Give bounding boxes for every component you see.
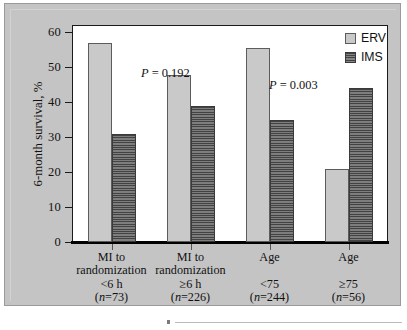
y-tick-label: 0 bbox=[55, 235, 61, 250]
x-category-label-4: Age ≥75(n=56) bbox=[297, 251, 400, 305]
bar-ims-group-3 bbox=[270, 120, 294, 243]
figure-root: 6-month survival, % 0102030405060 P = 0.… bbox=[0, 0, 407, 330]
y-tick-label: 20 bbox=[48, 165, 61, 180]
category-sample-size: (n=56) bbox=[297, 291, 400, 304]
y-tick-mark bbox=[65, 67, 72, 68]
bar-erv-group-4 bbox=[325, 169, 349, 243]
y-tick-mark bbox=[65, 102, 72, 103]
category-line-3: ≥75 bbox=[297, 278, 400, 291]
n-value: =73) bbox=[105, 290, 128, 304]
bar-ims-group-4 bbox=[349, 88, 373, 242]
y-tick-label: 40 bbox=[48, 95, 61, 110]
figure-panel: 6-month survival, % 0102030405060 P = 0.… bbox=[4, 3, 401, 306]
p-value-annotation-1: P = 0.192 bbox=[141, 66, 190, 81]
p-symbol-1: P bbox=[141, 66, 149, 80]
caption-rule bbox=[175, 322, 402, 323]
caption-fragment bbox=[167, 320, 402, 326]
y-tick-label: 60 bbox=[48, 25, 61, 40]
legend-swatch-erv-icon bbox=[345, 33, 356, 44]
p-value-text-2: = 0.003 bbox=[277, 78, 318, 92]
y-tick-mark bbox=[65, 137, 72, 138]
bar-erv-group-1 bbox=[88, 43, 112, 243]
bar-erv-group-2 bbox=[167, 75, 191, 242]
bar-erv-group-3 bbox=[246, 48, 270, 242]
y-tick-label: 50 bbox=[48, 60, 61, 75]
legend-item-erv: ERV bbox=[345, 31, 386, 45]
n-value: =226) bbox=[181, 290, 210, 304]
bar-ims-group-1 bbox=[112, 134, 136, 243]
y-tick-label: 10 bbox=[48, 200, 61, 215]
n-value: =56) bbox=[342, 290, 365, 304]
y-tick-mark bbox=[65, 207, 72, 208]
legend-label-ims: IMS bbox=[361, 50, 383, 64]
p-symbol-2: P bbox=[269, 78, 277, 92]
y-tick-label: 30 bbox=[48, 130, 61, 145]
y-tick-mark bbox=[65, 32, 72, 33]
n-value: =244) bbox=[260, 290, 289, 304]
p-value-text-1: = 0.192 bbox=[149, 66, 190, 80]
y-tick-group: 0102030405060 bbox=[5, 25, 72, 242]
y-axis: 0102030405060 bbox=[5, 25, 72, 242]
p-value-annotation-2: P = 0.003 bbox=[269, 78, 318, 93]
bar-ims-group-2 bbox=[191, 106, 215, 243]
x-axis-category-labels: MI torandomization<6 h(n=73)MI torandomi… bbox=[72, 251, 388, 309]
legend-swatch-ims-icon bbox=[345, 52, 356, 63]
legend: ERV IMS bbox=[345, 31, 386, 64]
legend-label-erv: ERV bbox=[361, 31, 386, 45]
category-line-1: Age bbox=[297, 251, 400, 264]
legend-item-ims: IMS bbox=[345, 50, 386, 64]
y-tick-mark bbox=[65, 172, 72, 173]
caption-marker-icon bbox=[167, 320, 170, 324]
bar-group bbox=[72, 25, 388, 242]
